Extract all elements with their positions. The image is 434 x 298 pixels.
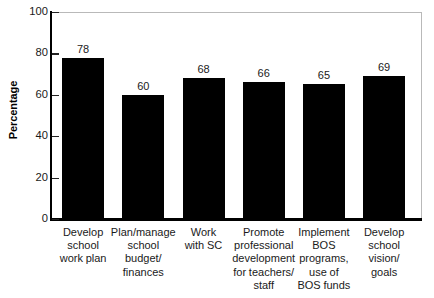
bar-value-label-6: 69 bbox=[353, 62, 415, 73]
y-tick-label-20: 20 bbox=[20, 172, 48, 183]
category-label-line: goals bbox=[350, 266, 418, 279]
category-label-line: Implement bbox=[290, 226, 358, 239]
category-label-line: school bbox=[350, 239, 418, 252]
category-label-1: Developschoolwork plan bbox=[49, 226, 117, 266]
bar-value-label-2: 60 bbox=[112, 81, 174, 92]
bar-3 bbox=[183, 78, 225, 219]
category-label-line: finances bbox=[109, 266, 177, 279]
category-label-line: Work bbox=[169, 226, 237, 239]
bar-chart: Percentage 100 80 60 40 20 0 78606866656… bbox=[0, 0, 434, 298]
category-label-line: for teachers/ bbox=[230, 266, 298, 279]
category-label-line: vision/ bbox=[350, 252, 418, 265]
y-tick-20 bbox=[52, 178, 59, 179]
y-tick-0 bbox=[52, 219, 59, 220]
category-label-line: BOS bbox=[290, 239, 358, 252]
category-label-line: staff bbox=[230, 279, 298, 292]
category-label-line: Develop bbox=[49, 226, 117, 239]
category-label-3: Workwith SC bbox=[169, 226, 237, 252]
category-label-line: programs, bbox=[290, 252, 358, 265]
y-tick-label-40: 40 bbox=[20, 130, 48, 141]
y-tick-label-80: 80 bbox=[20, 47, 48, 58]
category-label-line: budget/ bbox=[109, 252, 177, 265]
bar-5 bbox=[303, 84, 345, 219]
bar-1 bbox=[62, 58, 104, 219]
bar-value-label-3: 68 bbox=[173, 64, 235, 75]
bar-value-label-1: 78 bbox=[52, 44, 114, 55]
category-label-line: Plan/manage bbox=[109, 226, 177, 239]
category-label-6: Developschoolvision/goals bbox=[350, 226, 418, 279]
category-label-line: with SC bbox=[169, 239, 237, 252]
category-label-line: BOS funds bbox=[290, 279, 358, 292]
category-label-line: school bbox=[49, 239, 117, 252]
category-label-line: professional bbox=[230, 239, 298, 252]
y-tick-label-60: 60 bbox=[20, 89, 48, 100]
category-label-line: Promote bbox=[230, 226, 298, 239]
y-tick-100 bbox=[52, 12, 59, 13]
y-axis-line bbox=[50, 11, 52, 220]
y-tick-60 bbox=[52, 95, 59, 96]
bar-2 bbox=[122, 95, 164, 219]
category-label-4: Promoteprofessionaldevelopmentfor teache… bbox=[230, 226, 298, 292]
category-label-line: work plan bbox=[49, 252, 117, 265]
bar-4 bbox=[243, 82, 285, 219]
category-label-line: use of bbox=[290, 266, 358, 279]
category-label-5: ImplementBOSprograms,use ofBOS funds bbox=[290, 226, 358, 292]
bar-value-label-4: 66 bbox=[233, 68, 295, 79]
category-label-line: Develop bbox=[350, 226, 418, 239]
category-label-line: school bbox=[109, 239, 177, 252]
bar-6 bbox=[363, 76, 405, 219]
category-label-2: Plan/manageschoolbudget/finances bbox=[109, 226, 177, 279]
y-tick-label-100: 100 bbox=[20, 6, 48, 17]
y-axis-title: Percentage bbox=[7, 68, 19, 152]
y-tick-label-0: 0 bbox=[20, 213, 48, 224]
y-tick-40 bbox=[52, 136, 59, 137]
bar-value-label-5: 65 bbox=[293, 70, 355, 81]
category-label-line: development bbox=[230, 252, 298, 265]
